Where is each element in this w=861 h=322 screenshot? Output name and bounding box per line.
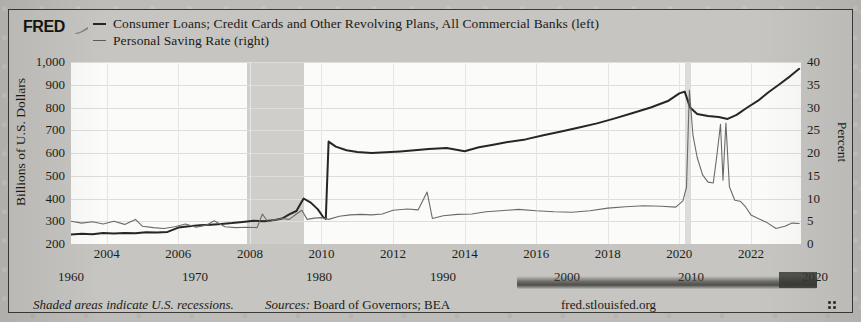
fred-chart-screenshot: FRED Consumer Loans; Credit Cards and Ot… [0,0,861,322]
chart-legend: FRED Consumer Loans; Credit Cards and Ot… [19,14,846,52]
x-axis-tick-label-primary: 2012 [380,246,406,262]
right-axis-tick-label: 0 [807,236,814,252]
x-axis-tick-label-primary: 2016 [523,246,549,262]
right-axis-tick-label: 10 [807,191,820,207]
right-axis-title: Percent [833,62,851,244]
x-axis-tick-label-primary: 2004 [94,246,120,262]
series-line-personal-saving-rate [71,90,799,228]
sources-text: Sources: Board of Governors; BEA [265,297,450,313]
resize-handle-dots-icon[interactable] [827,300,838,311]
plot-area[interactable] [71,62,801,244]
x-axis-tick-label-primary: 2008 [237,246,263,262]
x-axis-tick-label-primary: 2020 [666,246,692,262]
right-axis-tick-label: 35 [807,77,820,93]
left-axis-tick-label: 600 [9,145,65,161]
right-axis-tick-label: 30 [807,100,820,116]
left-axis-tick-label: 800 [9,100,65,116]
left-axis-tick-label: 400 [9,191,65,207]
x-axis-tick-label-secondary: 2020 [802,269,828,285]
left-axis-tick-label: 1,000 [9,54,65,70]
left-axis-tick-label: 300 [9,213,65,229]
x-axis-tick-label-primary: 2010 [308,246,334,262]
series-lines [71,62,801,244]
x-axis-tick-label-secondary: 1980 [306,269,332,285]
left-axis-tick-label: 500 [9,168,65,184]
x-axis-ticks-secondary: 1960197019801990200020102020 [31,269,831,289]
left-axis-tick-label: 200 [9,236,65,252]
x-axis-tick-label-primary: 2018 [595,246,621,262]
left-axis-tick-label: 700 [9,122,65,138]
x-axis-tick-label-secondary: 1970 [182,269,208,285]
recession-note: Shaded areas indicate U.S. recessions. [33,297,234,313]
sources-label: Sources: [265,297,310,312]
x-axis-tick-label-primary: 2006 [165,246,191,262]
x-axis-tick-label-primary: 2022 [738,246,764,262]
x-axis-tick-label-secondary: 1990 [430,269,456,285]
legend-item-personal-saving-rate[interactable]: Personal Saving Rate (right) [93,32,599,49]
fred-url: fred.stlouisfed.org [561,297,656,313]
x-axis-tick-label-secondary: 2000 [554,269,580,285]
fred-graph-card: FRED Consumer Loans; Credit Cards and Ot… [8,9,853,313]
legend-label-consumer-loans: Consumer Loans; Credit Cards and Other R… [113,16,599,32]
right-axis-tick-label: 5 [807,213,814,229]
legend-swatch-personal-saving-rate [93,40,106,41]
chart-footer: Shaded areas indicate U.S. recessions. S… [25,297,842,315]
fred-logo: FRED [23,18,65,36]
legend-label-personal-saving-rate: Personal Saving Rate (right) [113,33,269,49]
fred-swoosh-icon [75,26,89,35]
right-axis-tick-label: 40 [807,54,820,70]
right-axis-tick-label: 25 [807,122,820,138]
sources-value: Board of Governors; BEA [313,297,450,312]
legend-item-consumer-loans[interactable]: Consumer Loans; Credit Cards and Other R… [93,15,599,32]
left-axis-tick-label: 900 [9,77,65,93]
x-axis-tick-label-secondary: 1960 [58,269,84,285]
x-axis-tick-label-secondary: 2010 [678,269,704,285]
legend-swatch-consumer-loans [93,23,106,25]
x-axis-ticks-primary: 2004200620082010201220142016201820202022 [71,246,801,264]
right-axis-tick-label: 20 [807,145,820,161]
x-axis-tick-label-primary: 2014 [452,246,478,262]
right-axis-tick-label: 15 [807,168,820,184]
